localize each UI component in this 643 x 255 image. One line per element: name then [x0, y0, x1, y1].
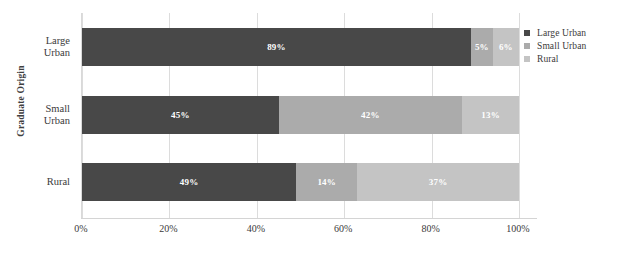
bar-segment-label: 13% — [481, 110, 500, 120]
bar-segment-label: 49% — [180, 177, 199, 187]
legend-item[interactable]: Large Urban — [524, 27, 586, 39]
bar-row: 49%14%37% — [82, 163, 518, 201]
legend: Large UrbanSmall UrbanRural — [524, 27, 586, 66]
y-axis-category-line: Large — [0, 35, 70, 48]
stacked-bar-chart: Graduate Origin 89%5%6%45%42%13%49%14%37… — [0, 0, 643, 255]
bar-segment: 89% — [82, 28, 471, 66]
x-axis-tick-label: 20% — [138, 223, 198, 234]
bar-segment: 42% — [279, 96, 463, 134]
bar-segment-label: 42% — [361, 110, 380, 120]
x-axis-tick-label: 60% — [313, 223, 373, 234]
bar-row: 89%5%6% — [82, 28, 518, 66]
x-axis-baseline — [81, 218, 537, 219]
bar-segment-label: 14% — [317, 177, 336, 187]
clipped-header-text — [14, 0, 434, 4]
x-axis-tick-label: 40% — [226, 223, 286, 234]
y-axis-category-line: Rural — [0, 176, 70, 189]
legend-label: Rural — [537, 54, 559, 64]
y-axis-category-label: LargeUrban — [0, 35, 70, 60]
bar-segment: 14% — [296, 163, 357, 201]
y-axis-category-line: Urban — [0, 47, 70, 60]
legend-swatch-icon — [524, 56, 530, 62]
x-axis-tick-label: 0% — [51, 223, 111, 234]
bar-segment-label: 89% — [267, 42, 286, 52]
legend-item[interactable]: Small Urban — [524, 40, 586, 52]
gridline-100pct — [519, 13, 520, 218]
y-axis-category-line: Small — [0, 103, 70, 116]
bar-segment: 13% — [462, 96, 519, 134]
legend-item[interactable]: Rural — [524, 53, 586, 65]
legend-swatch-icon — [524, 30, 530, 36]
x-axis-tick-label: 80% — [401, 223, 461, 234]
legend-label: Small Urban — [537, 41, 586, 51]
x-axis-tick-label: 100% — [488, 223, 548, 234]
plot-area: 89%5%6%45%42%13%49%14%37% — [81, 13, 518, 218]
legend-swatch-icon — [524, 43, 530, 49]
bar-segment: 5% — [471, 28, 493, 66]
bar-segment-label: 37% — [429, 177, 448, 187]
bar-segment: 45% — [82, 96, 279, 134]
y-axis-category-label: SmallUrban — [0, 103, 70, 128]
bar-segment: 49% — [82, 163, 296, 201]
bar-segment: 6% — [493, 28, 519, 66]
bar-segment-label: 6% — [499, 42, 513, 52]
y-axis-category-label: Rural — [0, 176, 70, 189]
bar-segment-label: 45% — [171, 110, 190, 120]
legend-label: Large Urban — [537, 28, 586, 38]
y-axis-category-line: Urban — [0, 115, 70, 128]
bar-row: 45%42%13% — [82, 96, 518, 134]
bar-segment: 37% — [357, 163, 519, 201]
bar-segment-label: 5% — [475, 42, 489, 52]
